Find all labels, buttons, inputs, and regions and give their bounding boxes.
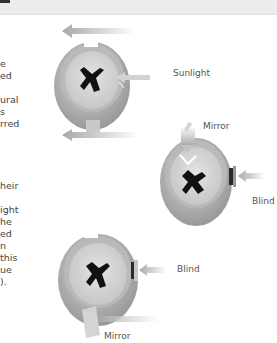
blind-label: Blind bbox=[252, 196, 275, 206]
mirror-label: Mirror bbox=[203, 121, 230, 131]
diagram-middle bbox=[160, 122, 265, 226]
diagram-bottom bbox=[58, 228, 166, 338]
sunlight-label: Sunlight bbox=[173, 68, 210, 78]
mirror-label: Mirror bbox=[104, 331, 131, 341]
blind-label: Blind bbox=[177, 264, 200, 274]
diagram-canvas bbox=[0, 0, 277, 343]
diagram-top bbox=[54, 24, 150, 141]
